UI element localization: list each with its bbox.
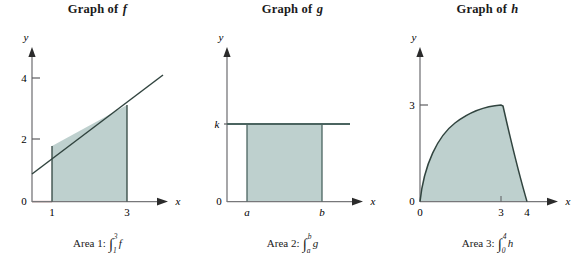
y-axis-arrow-f <box>28 47 35 57</box>
three-graphs-figure: Graph of f <box>0 0 585 256</box>
integral-upper-limit-1: 3 <box>114 233 118 241</box>
integral-upper-limit-3: 4 <box>503 233 507 241</box>
panel-graph-f: Graph of f <box>0 0 195 256</box>
caption-area-3: Area 3:∫40h <box>390 237 585 252</box>
plot-area-h: y x 3 0 0 3 4 <box>390 24 585 224</box>
origin-label-f: 0 <box>21 195 27 207</box>
x-ticklabel-3-f: 3 <box>124 206 130 218</box>
y-ticklabel-2-f: 2 <box>21 133 27 145</box>
origin-label-h: 0 <box>409 195 415 207</box>
x-axis-arrow-f <box>157 198 168 206</box>
y-axis-arrow-h <box>416 47 423 57</box>
caption-area-2: Area 2:∫bag <box>195 237 390 252</box>
y-ticklabel-4-f: 4 <box>21 72 27 84</box>
y-axis-label-h: y <box>411 31 417 43</box>
panel-graph-g: Graph of g y <box>195 0 390 256</box>
caption-label-2: Area 2: <box>267 237 303 249</box>
panel-title-f-prefix: Graph of <box>68 2 119 16</box>
shaded-region-g <box>247 124 322 202</box>
panel-title-h-prefix: Graph of <box>456 2 507 16</box>
panel-title-h: Graph of h <box>390 2 585 17</box>
integral-lower-limit-2: a <box>307 247 311 255</box>
panel-title-h-function: h <box>510 2 518 16</box>
shaded-region-f <box>52 105 127 201</box>
x-ticklabel-1-f: 1 <box>49 206 55 218</box>
y-axis-arrow-g <box>223 47 230 57</box>
x-ticklabel-3-h: 3 <box>498 206 504 218</box>
y-ticklabel-3-h: 3 <box>409 99 415 111</box>
x-ticklabel-4-h: 4 <box>524 206 530 218</box>
integral-symbol-2: ∫ba <box>303 237 308 252</box>
plot-area-g: y x k 0 a b <box>195 24 390 224</box>
panel-title-g-prefix: Graph of <box>262 2 313 16</box>
y-ticklabel-k-g: k <box>215 118 221 130</box>
integral-symbol-1: ∫31 <box>109 237 114 252</box>
panel-title-f-function: f <box>122 2 127 16</box>
caption-area-1: Area 1:∫31f <box>0 237 195 252</box>
integral-lower-limit-1: 1 <box>113 247 117 255</box>
panel-title-g-function: g <box>316 2 323 16</box>
caption-label-1: Area 1: <box>73 237 109 249</box>
panel-title-f: Graph of f <box>0 2 195 17</box>
x-axis-arrow-g <box>352 198 363 206</box>
integral-lower-limit-3: 0 <box>502 247 506 255</box>
plot-area-f: y x 4 2 0 1 3 <box>0 24 195 224</box>
y-axis-label-g: y <box>218 31 224 43</box>
x-ticklabel-b-g: b <box>319 206 325 218</box>
x-axis-label-g: x <box>370 195 376 207</box>
panel-graph-h: Graph of h y x <box>390 0 585 256</box>
panel-title-g: Graph of g <box>195 2 390 17</box>
shaded-region-h <box>420 105 527 202</box>
x-axis-label-h: x <box>565 195 571 207</box>
x-axis-arrow-h <box>547 198 558 206</box>
caption-label-3: Area 3: <box>462 237 498 249</box>
integral-symbol-3: ∫40 <box>498 237 503 252</box>
integral-upper-limit-2: b <box>308 233 312 241</box>
x-axis-label-f: x <box>175 195 181 207</box>
x-ticklabel-a-g: a <box>244 206 250 218</box>
y-axis-label-f: y <box>23 31 29 43</box>
x-ticklabel-0-h: 0 <box>417 206 423 218</box>
origin-label-g: 0 <box>216 195 222 207</box>
